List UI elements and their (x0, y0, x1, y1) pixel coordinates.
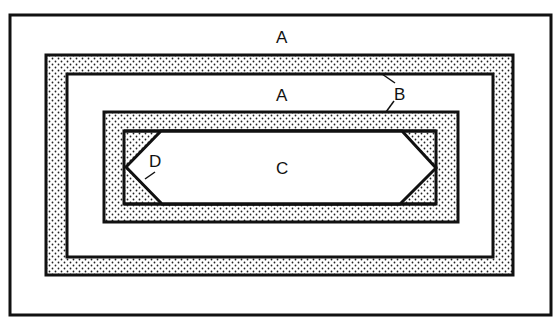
nested-rectangles-diagram: A A B C D (0, 0, 560, 324)
label-b: B (394, 85, 405, 104)
label-c: C (276, 159, 288, 178)
label-a-outer: A (276, 28, 288, 47)
label-d: D (149, 152, 161, 171)
label-a-middle: A (276, 86, 288, 105)
